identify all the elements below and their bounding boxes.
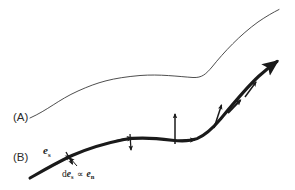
relation-equation: des∝en [62,169,95,180]
panel-b-caption: (B) [13,151,29,163]
figure-container: (A) (B) es des∝en [0,0,295,190]
panel-a-caption: (A) [13,111,29,123]
tangent-vector-subscript: s [48,151,51,159]
equation-rhs-subscript: n [91,173,95,180]
equation-relation-symbol: ∝ [77,169,83,179]
curve-frenet-frame-figure: (A) (B) es des∝en [0,0,295,190]
figure-background [0,0,295,190]
